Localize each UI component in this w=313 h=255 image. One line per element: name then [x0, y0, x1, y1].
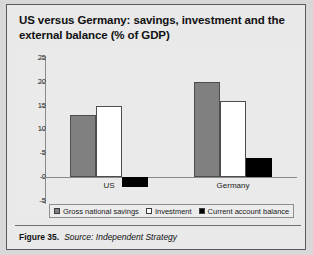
figure-number: Figure 35.: [19, 232, 59, 242]
y-tick: -5: [15, 197, 46, 205]
y-tick: 15: [15, 102, 46, 110]
y-tick: 10: [15, 125, 46, 133]
legend-item[interactable]: Gross national savings: [54, 207, 139, 216]
bar-series-group: [46, 47, 301, 217]
legend-swatch-icon: [199, 208, 205, 214]
bar-invest: [220, 101, 246, 177]
chart-title: US versus Germany: savings, investment a…: [19, 13, 299, 43]
bar-savings: [70, 115, 96, 177]
footer-divider: [15, 225, 301, 226]
bar-savings: [194, 82, 220, 177]
legend-label: Gross national savings: [63, 207, 139, 216]
legend-label: Current account balance: [208, 207, 290, 216]
legend-swatch-icon: [54, 208, 60, 214]
y-tick: 0: [15, 173, 46, 181]
y-tick: 25: [15, 54, 46, 62]
chart-legend: Gross national savingsInvestmentCurrent …: [49, 204, 294, 218]
figure-footer: Figure 35.Source: Independent Strategy: [19, 231, 177, 243]
x-category-label: Germany: [194, 181, 272, 191]
legend-item[interactable]: Investment: [146, 207, 192, 216]
legend-label: Investment: [155, 207, 192, 216]
legend-swatch-icon: [146, 208, 152, 214]
figure-source: Source: Independent Strategy: [59, 232, 177, 242]
figure-frame: US versus Germany: savings, investment a…: [6, 4, 306, 250]
bar-invest: [96, 106, 122, 177]
x-category-label: US: [70, 181, 148, 191]
bar-current: [246, 158, 272, 177]
legend-item[interactable]: Current account balance: [199, 207, 290, 216]
y-tick: 5: [15, 149, 46, 157]
chart-plot-area: 2520151050-5 USGermany: [15, 47, 301, 217]
figure-container: US versus Germany: savings, investment a…: [0, 0, 313, 255]
y-tick: 20: [15, 78, 46, 86]
